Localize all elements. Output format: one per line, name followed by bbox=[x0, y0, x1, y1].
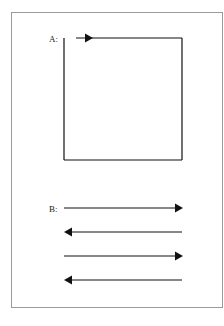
panel-a-arrowhead-icon bbox=[85, 34, 93, 43]
panel-b-arrows bbox=[64, 204, 183, 285]
panel-a-square-path bbox=[64, 38, 182, 160]
arrow-right-1 bbox=[64, 204, 183, 213]
diagram-canvas bbox=[0, 0, 224, 326]
arrow-left-1 bbox=[64, 228, 182, 237]
arrow-right-2 bbox=[64, 252, 183, 261]
arrow-left-2 bbox=[64, 276, 182, 285]
